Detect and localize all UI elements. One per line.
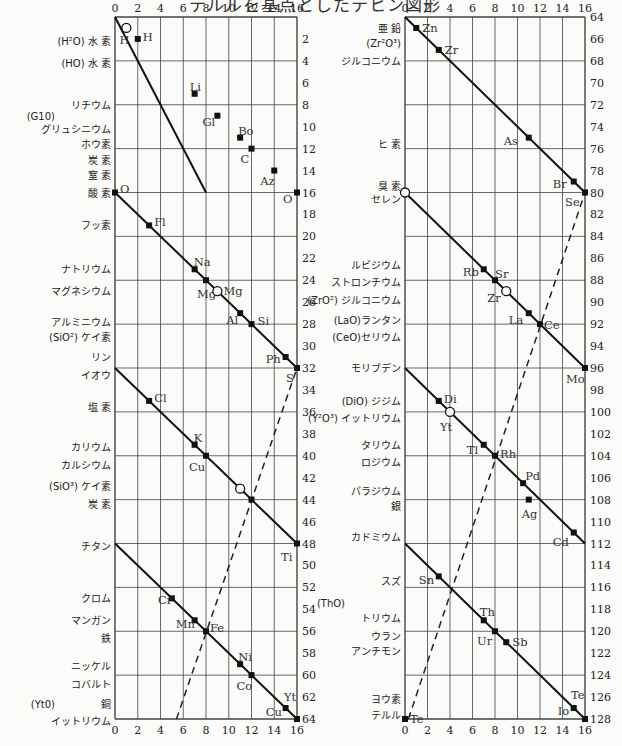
point-label: Gl (202, 115, 215, 129)
svg-text:54: 54 (302, 603, 316, 616)
svg-text:12: 12 (533, 2, 547, 15)
point-label: Cu (266, 705, 282, 719)
point-marker (413, 25, 419, 31)
svg-text:イットリウム: イットリウム (51, 716, 111, 727)
svg-text:124: 124 (590, 669, 611, 682)
point-marker (146, 398, 152, 404)
svg-text:100: 100 (590, 406, 611, 419)
point-label: As (503, 134, 518, 148)
svg-text:34: 34 (302, 384, 316, 397)
point-label: S (286, 371, 294, 385)
point-marker (294, 365, 300, 371)
svg-text:2: 2 (134, 724, 141, 737)
point-label: Rb (463, 265, 479, 279)
svg-text:フッ素: フッ素 (81, 219, 111, 231)
svg-text:20: 20 (302, 230, 316, 243)
svg-text:88: 88 (590, 274, 604, 287)
svg-text:98: 98 (590, 384, 604, 397)
svg-text:クロム: クロム (81, 593, 111, 604)
point-label: Az (259, 174, 274, 188)
svg-text:タリウム: タリウム (361, 440, 401, 451)
point-marker (526, 310, 532, 316)
svg-text:酸 素: 酸 素 (88, 187, 111, 199)
point-marker (492, 453, 498, 459)
point-marker (582, 716, 588, 722)
svg-text:リン: リン (91, 352, 111, 363)
svg-text:64: 64 (302, 713, 316, 726)
svg-text:10: 10 (222, 2, 236, 15)
svg-text:0: 0 (402, 2, 409, 15)
svg-text:96: 96 (590, 362, 604, 375)
svg-text:114: 114 (590, 559, 611, 572)
svg-text:6: 6 (302, 77, 309, 90)
svg-text:(CeO)セリウム: (CeO)セリウム (332, 332, 401, 343)
point-label: Te (571, 688, 585, 702)
point-label: Na (194, 255, 211, 269)
point-label: Mo (566, 372, 585, 386)
svg-text:62: 62 (302, 691, 316, 704)
svg-text:14: 14 (267, 724, 281, 737)
point-label: Br (553, 177, 567, 191)
element-name-labels: 亜 鉛(Zr²O³)ジルコニウムヒ 素臭 素セレンルビジウムストロンチウム(Zr… (307, 22, 401, 721)
svg-text:塩 素: 塩 素 (88, 401, 111, 413)
point-label: O (120, 182, 129, 196)
svg-text:0: 0 (402, 724, 409, 737)
svg-text:122: 122 (590, 647, 611, 660)
svg-text:52: 52 (302, 581, 316, 594)
point-marker (203, 628, 209, 634)
point-label: Cu (189, 460, 205, 474)
svg-text:64: 64 (590, 11, 604, 24)
svg-text:92: 92 (590, 318, 604, 331)
tehin-diagram: 0022446688101012121414161624681012141618… (0, 0, 622, 746)
point-label: Rh (500, 447, 517, 461)
open-point-marker (502, 287, 511, 296)
svg-text:(SiO³) ケイ素: (SiO³) ケイ素 (49, 480, 111, 492)
svg-text:58: 58 (302, 647, 316, 660)
svg-text:テルル: テルル (371, 710, 401, 721)
svg-text:マンガン: マンガン (71, 615, 111, 626)
point-label: Ph (266, 352, 282, 366)
point-marker (283, 705, 289, 711)
svg-text:銅: 銅 (101, 698, 111, 710)
svg-text:14: 14 (302, 165, 316, 178)
point-marker (526, 497, 532, 503)
point-label: H (119, 33, 129, 47)
svg-text:(LaO)ランタン: (LaO)ランタン (334, 315, 401, 326)
svg-text:118: 118 (590, 603, 611, 616)
svg-text:2: 2 (424, 724, 431, 737)
svg-text:チタン: チタン (81, 541, 111, 552)
point-label: O (283, 192, 292, 206)
open-point-marker (446, 407, 455, 416)
svg-text:(ZrO²) ジルコニウム: (ZrO²) ジルコニウム (307, 295, 401, 306)
svg-text:56: 56 (302, 625, 316, 638)
x-axis-ticks: 00224466881010121214141616 (402, 2, 593, 737)
open-point-marker (401, 188, 410, 197)
point-label: Pd (525, 469, 541, 483)
grid (405, 17, 585, 719)
svg-text:8: 8 (203, 2, 210, 15)
svg-text:66: 66 (590, 33, 604, 46)
point-label: Bo (238, 124, 253, 138)
svg-text:(SiO²) ケイ素: (SiO²) ケイ素 (49, 331, 111, 343)
point-marker (571, 530, 577, 536)
point-marker (249, 497, 255, 503)
point-label: Se (565, 195, 580, 209)
svg-text:32: 32 (302, 362, 316, 375)
point-marker (135, 36, 141, 42)
svg-text:80: 80 (590, 187, 604, 200)
point-label: Ti (281, 550, 293, 564)
point-marker (249, 321, 255, 327)
svg-text:2: 2 (134, 2, 141, 15)
svg-text:4: 4 (447, 724, 454, 737)
svg-text:8: 8 (302, 99, 309, 112)
point-label: Yt (439, 420, 453, 434)
point-label: Yt (283, 690, 297, 704)
point-marker (294, 716, 300, 722)
svg-text:28: 28 (302, 318, 316, 331)
svg-text:10: 10 (302, 121, 316, 134)
point-marker (481, 442, 487, 448)
svg-text:50: 50 (302, 559, 316, 572)
point-label: Te (410, 712, 424, 726)
svg-text:4: 4 (302, 55, 309, 68)
point-marker (582, 190, 588, 196)
